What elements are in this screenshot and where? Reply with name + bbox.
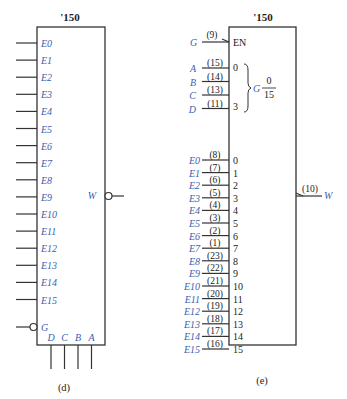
input-index-e: 9 <box>233 268 238 279</box>
output-signal-e: W <box>324 190 334 201</box>
select-label-d: B <box>75 332 81 343</box>
input-signal-e: E10 <box>183 281 200 292</box>
input-index-e: 6 <box>233 231 238 242</box>
select-inputs-e: (15)A(14)B(13)C(11)D <box>188 58 229 115</box>
enable-pin-e: (9) <box>206 30 217 41</box>
input-label-d: E13 <box>40 260 57 271</box>
input-signal-e: E2 <box>188 180 200 191</box>
input-signal-e: E13 <box>183 319 200 330</box>
input-pin-e: (1) <box>209 238 220 249</box>
caption-e: (e) <box>256 375 268 387</box>
data-inputs-e: (8)E00(7)E11(6)E22(5)E33(4)E44(3)E55(2)E… <box>183 150 243 355</box>
input-pin-e: (8) <box>209 150 220 161</box>
input-pin-e: (16) <box>207 339 223 350</box>
input-label-d: E15 <box>40 295 57 306</box>
inversion-bubble-icon <box>105 193 112 200</box>
input-label-d: E3 <box>40 89 52 100</box>
input-signal-e: E14 <box>183 331 200 342</box>
input-label-d: E11 <box>40 226 56 237</box>
input-pin-e: (6) <box>209 175 220 186</box>
input-pin-e: (7) <box>209 163 220 174</box>
input-signal-e: E9 <box>188 268 200 279</box>
chip-title-d: '150 <box>60 11 80 23</box>
input-index-e: 13 <box>233 319 243 330</box>
input-label-d: E8 <box>40 175 52 186</box>
enable-signal-e: G <box>190 37 197 48</box>
input-signal-e: E4 <box>188 205 200 216</box>
input-label-d: E5 <box>40 124 52 135</box>
select-range-low: 0 <box>233 62 238 73</box>
input-label-d: E0 <box>40 38 52 49</box>
input-index-e: 0 <box>233 155 238 166</box>
input-signal-e: E15 <box>183 344 200 355</box>
input-pin-e: (3) <box>209 213 220 224</box>
output-pin-e: (10) <box>302 184 318 195</box>
input-pin-e: (5) <box>209 188 220 199</box>
input-pin-e: (21) <box>207 276 223 287</box>
input-label-d: E12 <box>40 243 57 254</box>
chip-title-e: '150 <box>253 11 273 23</box>
group-frac-bottom: 15 <box>264 89 274 100</box>
input-signal-e: E7 <box>188 243 201 254</box>
inversion-bubble-icon <box>30 324 37 331</box>
select-label-d: A <box>87 332 95 343</box>
input-label-d: E2 <box>40 72 52 83</box>
input-pin-e: (18) <box>207 314 223 325</box>
input-index-e: 8 <box>233 256 238 267</box>
input-signal-e: E11 <box>184 294 200 305</box>
input-pin-e: (23) <box>207 251 223 262</box>
select-signal-e: C <box>189 90 196 101</box>
mux-diagrams: '150 E0E1E2E3E4E5E6E7E8E9E10E11E12E13E14… <box>0 0 347 399</box>
input-index-e: 11 <box>233 294 243 305</box>
input-pin-e: (20) <box>207 289 223 300</box>
select-pin-e: (15) <box>207 58 223 69</box>
input-signal-e: E8 <box>188 256 200 267</box>
input-signal-e: E3 <box>188 193 200 204</box>
input-label-d: E10 <box>40 209 57 220</box>
select-label-d: C <box>61 332 68 343</box>
input-label-d: E9 <box>40 192 52 203</box>
input-index-e: 15 <box>233 344 243 355</box>
input-signal-e: E6 <box>188 231 200 242</box>
select-label-d: D <box>46 332 55 343</box>
select-pin-e: (11) <box>207 99 222 110</box>
input-index-e: 5 <box>233 218 238 229</box>
input-signal-e: E12 <box>183 306 200 317</box>
input-index-e: 2 <box>233 180 238 191</box>
select-pin-e: (13) <box>207 85 223 96</box>
input-pin-e: (19) <box>207 301 223 312</box>
input-signal-e: E1 <box>188 168 200 179</box>
input-index-e: 7 <box>233 243 238 254</box>
input-signal-e: E0 <box>188 155 200 166</box>
group-label: G <box>253 83 260 94</box>
select-pin-e: (14) <box>207 72 223 83</box>
caption-d: (d) <box>58 382 71 394</box>
group-frac-top: 0 <box>267 75 272 86</box>
diagram-d: '150 E0E1E2E3E4E5E6E7E8E9E10E11E12E13E14… <box>16 11 124 394</box>
select-signal-e: B <box>190 77 196 88</box>
input-index-e: 14 <box>233 331 243 342</box>
input-index-e: 10 <box>233 281 243 292</box>
input-pin-e: (22) <box>207 263 223 274</box>
input-index-e: 4 <box>233 205 238 216</box>
input-index-e: 12 <box>233 306 243 317</box>
input-pin-e: (17) <box>207 326 223 337</box>
input-index-e: 3 <box>233 193 238 204</box>
input-label-d: E6 <box>40 141 52 152</box>
select-signal-e: A <box>189 63 197 74</box>
select-range-high: 3 <box>233 101 238 112</box>
diagram-e: '150 G (9) EN (15)A(14)B(13)C(11)D 0 3 G… <box>183 11 334 387</box>
input-label-d: E14 <box>40 277 57 288</box>
input-label-d: E4 <box>40 106 52 117</box>
input-signal-e: E5 <box>188 218 200 229</box>
enable-label-e: EN <box>233 37 246 48</box>
input-label-d: E1 <box>40 55 52 66</box>
input-pin-e: (4) <box>209 200 220 211</box>
input-label-d: E7 <box>40 158 53 169</box>
select-signal-e: D <box>188 104 197 115</box>
input-index-e: 1 <box>233 168 238 179</box>
input-pin-e: (2) <box>209 226 220 237</box>
